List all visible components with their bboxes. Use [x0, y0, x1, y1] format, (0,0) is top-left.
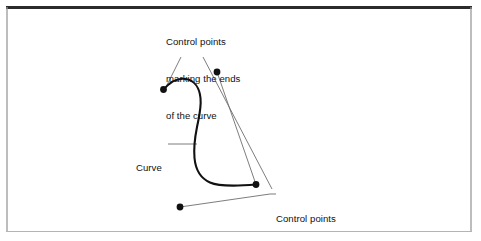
- distort-point-lower[interactable]: [177, 204, 184, 211]
- annotation-distort-line-1: Control points: [276, 213, 337, 225]
- annotation-ends-line-3: of the curve: [166, 110, 240, 122]
- annotation-control-points-distort: Control points used to distort the curve: [276, 188, 337, 241]
- curve-end-point[interactable]: [253, 181, 260, 188]
- diagram-canvas: [0, 0, 481, 241]
- figure-container: Control points marking the ends of the c…: [0, 0, 481, 241]
- annotation-curve-text: Curve: [136, 162, 162, 174]
- annotation-control-points-ends: Control points marking the ends of the c…: [166, 11, 240, 147]
- annotation-ends-line-2: marking the ends: [166, 73, 240, 85]
- annotation-curve: Curve: [136, 137, 162, 199]
- annotation-ends-line-1: Control points: [166, 36, 240, 48]
